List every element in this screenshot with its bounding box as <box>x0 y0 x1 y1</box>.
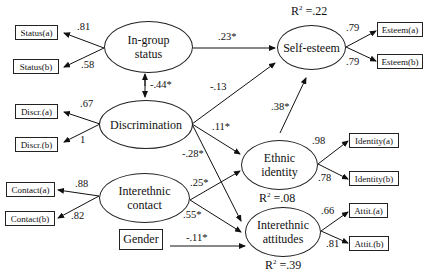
r2-interethnic-attitudes: R2 =.39 <box>265 258 301 273</box>
latent-label: attitudes <box>257 232 309 246</box>
latent-label: Interethnic <box>119 184 171 198</box>
r2-ethnic-identity: R2 =.08 <box>259 191 295 206</box>
indicator-identity-b: Identity(b) <box>349 171 399 186</box>
latent-label: status <box>128 47 170 61</box>
path-discr-esteem: -.13 <box>210 81 227 92</box>
latent-discrimination: Discrimination <box>99 100 193 149</box>
loading-identity-b: .78 <box>318 172 331 183</box>
loading-identity-a: .98 <box>312 135 325 146</box>
loading-attit-b: .81 <box>326 238 339 249</box>
loading-contact-b: .82 <box>71 210 84 221</box>
indicator-attit-a: Attit.(a) <box>349 203 388 218</box>
latent-ingroup-status: In-groupstatus <box>104 21 193 73</box>
indicator-contact-b: Contact(b) <box>5 211 55 226</box>
path-contact-attitudes: .55* <box>183 209 201 220</box>
latent-self-esteem: Self-esteem <box>277 25 346 70</box>
latent-label: Discrimination <box>110 118 182 132</box>
loading-status-b: .58 <box>81 59 94 70</box>
loading-status-a: .81 <box>77 21 90 32</box>
indicator-discr-b: Discr.(b) <box>15 137 58 152</box>
path-status-discr-cov: -.44* <box>150 79 172 90</box>
latent-interethnic-contact: Interethniccontact <box>99 173 190 223</box>
indicator-identity-a: Identity(a) <box>349 133 399 148</box>
loading-discr-a: .67 <box>80 98 93 109</box>
path-gender-attitudes: -.11* <box>186 232 207 243</box>
loading-discr-b: 1 <box>80 134 85 145</box>
path-discr-attitudes: -.28* <box>182 148 204 159</box>
latent-label: Self-esteem <box>283 41 340 55</box>
loading-esteem-b: .79 <box>346 56 359 67</box>
latent-interethnic-attitudes: Interethnicattitudes <box>245 207 321 257</box>
latent-label: In-group <box>128 33 170 47</box>
path-identity-esteem: .38* <box>271 101 289 112</box>
loading-contact-a: .88 <box>75 178 88 189</box>
indicator-esteem-b: Esteem(b) <box>377 54 423 69</box>
latent-label: contact <box>119 198 171 212</box>
path-status-esteem: .23* <box>218 31 236 42</box>
indicator-discr-a: Discr.(a) <box>15 104 58 119</box>
indicator-contact-a: Contact(a) <box>6 182 55 197</box>
indicator-status-a: Status(a) <box>15 25 58 40</box>
r2-self-esteem: R2 =.22 <box>291 4 327 19</box>
path-contact-identity: .25* <box>190 177 208 188</box>
loading-attit-a: .66 <box>321 205 334 216</box>
indicator-status-b: Status(b) <box>13 59 59 74</box>
latent-label: Interethnic <box>257 218 309 232</box>
latent-ethnic-identity: Ethnicidentity <box>241 140 318 190</box>
latent-label: Ethnic <box>261 151 298 165</box>
indicator-esteem-a: Esteem(a) <box>377 22 423 37</box>
path-discr-identity: .11* <box>212 121 230 132</box>
indicator-attit-b: Attit.(b) <box>349 236 389 251</box>
latent-label: identity <box>261 165 298 179</box>
indicator-gender: Gender <box>119 229 163 250</box>
loading-esteem-a: .79 <box>346 22 359 33</box>
